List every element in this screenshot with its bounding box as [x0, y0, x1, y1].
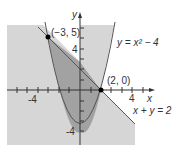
- x-axis-arrow: [149, 88, 155, 92]
- x-tick-label-neg4: -4: [28, 94, 37, 105]
- y-tick-label-4: 4: [72, 44, 78, 55]
- x-tick-label-4: 4: [129, 93, 135, 104]
- point-neg3-5: [46, 35, 51, 40]
- line-label: x + y = 2: [132, 105, 172, 116]
- y-tick-label-neg4: -4: [66, 126, 75, 137]
- point-label-neg3-5: (−3, 5): [51, 27, 80, 38]
- point-2-0: [99, 88, 104, 93]
- inequality-graph: y x -4 4 4 -4 (−3, 5) (2, 0) y = x² − 4 …: [0, 0, 173, 145]
- x-axis-label: x: [146, 93, 153, 104]
- parabola-label: y = x² − 4: [116, 37, 159, 48]
- y-axis-label: y: [71, 9, 78, 20]
- y-axis-arrow: [78, 12, 82, 18]
- point-label-2-0: (2, 0): [107, 75, 130, 86]
